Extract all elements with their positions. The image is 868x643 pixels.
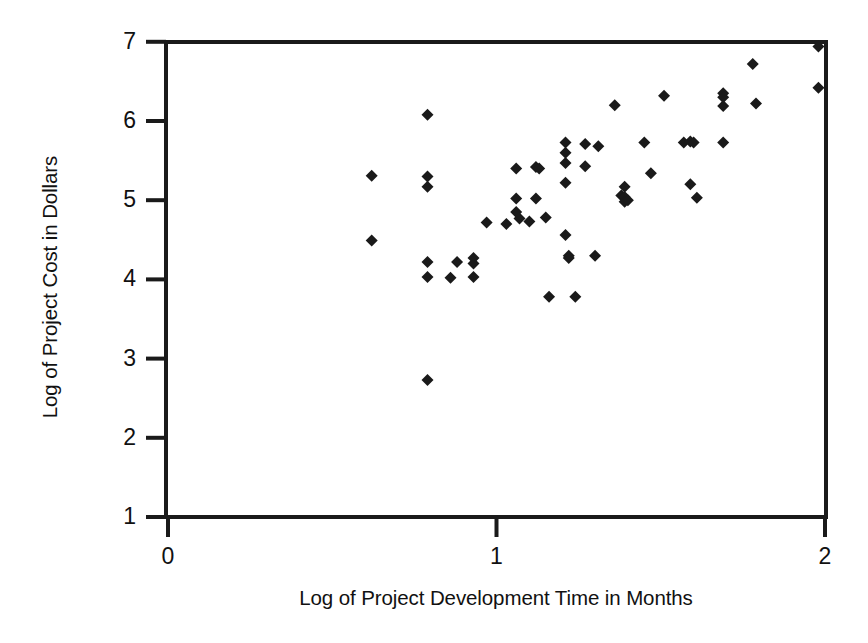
data-point [579,138,591,150]
data-point [422,256,434,268]
data-point [510,163,522,175]
x-tick-label: 0 [148,545,188,568]
y-tick-label: 6 [102,109,136,132]
y-tick-label: 4 [102,267,136,290]
x-tick-label: 2 [805,545,845,568]
scatter-plot-figure: Log of Project Cost in Dollars Log of Pr… [0,0,868,643]
axis-frame [166,42,826,517]
data-point [812,82,824,94]
data-point [559,147,571,159]
data-point [609,99,621,111]
y-tick-label: 5 [102,188,136,211]
data-point [481,216,493,228]
data-point [468,271,480,283]
data-point [530,193,542,205]
data-point [445,272,457,284]
data-point [747,58,759,70]
data-point [540,212,552,224]
data-point [691,192,703,204]
y-tick-label: 3 [102,347,136,370]
data-point [543,291,555,303]
data-point [451,256,463,268]
data-point [523,216,535,228]
data-point [366,170,378,182]
data-point [638,136,650,148]
x-tick-label: 1 [477,545,517,568]
data-point [717,136,729,148]
data-point [422,374,434,386]
data-point [645,167,657,179]
data-point [510,193,522,205]
data-point [366,235,378,247]
data-point [422,181,434,193]
data-point [559,177,571,189]
data-point [559,136,571,148]
y-axis-ticks [146,42,166,517]
data-point [422,170,434,182]
data-point [592,140,604,152]
data-point [563,252,575,264]
data-point [579,160,591,172]
x-axis-ticks [168,517,825,537]
data-point [559,229,571,241]
data-point [500,218,512,230]
data-point [569,291,581,303]
y-tick-label: 1 [102,505,136,528]
data-point [422,109,434,121]
data-point [559,157,571,169]
data-point-layer [366,41,825,386]
data-point [422,271,434,283]
data-point [589,250,601,262]
y-tick-label: 2 [102,426,136,449]
data-point [750,98,762,110]
data-point [684,178,696,190]
plot-border [166,42,826,517]
y-tick-label: 7 [102,30,136,53]
plot-area [0,0,868,643]
data-point [658,90,670,102]
